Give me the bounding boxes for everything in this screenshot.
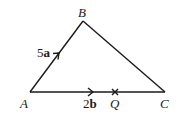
triangle-diagram: B A C Q 5a 2b xyxy=(0,0,179,119)
vector-label-ab: 5a xyxy=(37,45,51,60)
point-label-q: Q xyxy=(110,96,120,111)
vertex-label-a: A xyxy=(19,96,28,111)
vertex-label-b: B xyxy=(78,5,86,20)
vertex-label-c: C xyxy=(160,96,169,111)
vector-label-ac: 2b xyxy=(83,96,97,111)
edge-bc xyxy=(83,21,165,92)
